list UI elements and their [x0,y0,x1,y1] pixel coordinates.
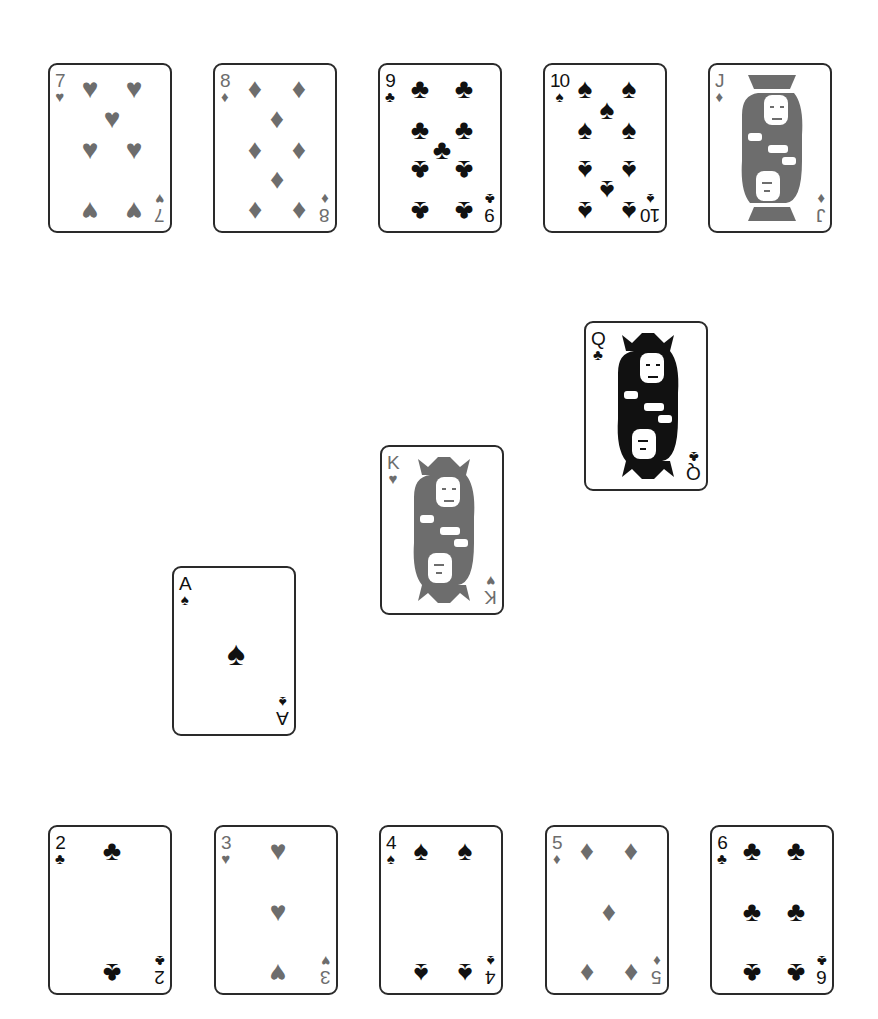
diamond-pip-icon: ♦ [270,167,284,195]
card-corner-index: Q♣ [591,329,605,362]
heart-pip-icon: ♥ [82,136,99,164]
card-corner-index: Q♣ [687,450,701,483]
card-corner-index: 5♦ [552,833,562,866]
card-4s[interactable]: 4♠4♠♠♠♠♠ [379,825,503,995]
card-kh[interactable]: K♥K♥ [380,445,504,615]
diamond-pip-icon: ♦ [270,105,284,133]
club-pip-icon: ♣ [455,197,473,225]
card-corner-index: A♠ [179,574,191,607]
card-3h[interactable]: 3♥3♥♥♥♥ [214,825,338,995]
club-pip-icon: ♣ [787,898,805,926]
card-corner-index: 6♣ [717,833,727,866]
club-pip-icon: ♣ [455,156,473,184]
diamond-pip-icon: ♦ [248,136,262,164]
card-corner-index: J♦ [715,71,724,104]
club-pip-icon: ♣ [455,116,473,144]
spade-pip-icon: ♠ [622,197,637,225]
card-corner-index: 9♣ [385,71,395,104]
heart-pip-icon: ♥ [270,898,287,926]
card-qc[interactable]: Q♣Q♣ [584,321,708,491]
heart-icon: ♥ [322,954,331,969]
spade-pip-icon: ♠ [414,837,429,865]
club-pip-icon: ♣ [433,136,451,164]
card-rank: 6 [817,968,827,987]
diamond-pip-icon: ♦ [602,898,616,926]
card-7h[interactable]: 7♥7♥♥♥♥♥♥♥♥ [48,63,172,233]
card-rank: J [817,206,826,225]
diamond-icon: ♦ [221,89,229,104]
card-corner-index: 3♥ [321,954,331,987]
spade-icon: ♠ [181,592,189,607]
heart-pip-icon: ♥ [82,197,99,225]
card-6c[interactable]: 6♣6♣♣♣♣♣♣♣ [710,825,834,995]
club-pip-icon: ♣ [103,959,121,987]
diamond-pip-icon: ♦ [292,75,306,103]
card-corner-index: 8♦ [220,71,230,104]
face-card-portrait-icon [406,457,482,603]
diamond-pip-icon: ♦ [248,197,262,225]
spade-pip-icon: ♠ [600,96,615,124]
card-corner-index: 7♥ [155,192,165,225]
card-8d[interactable]: 8♦8♦♦♦♦♦♦♦♦♦ [213,63,337,233]
card-corner-index: 6♣ [817,954,827,987]
card-rank: 8 [320,206,330,225]
heart-pip-icon: ♥ [126,197,143,225]
card-jd[interactable]: J♦J♦ [708,63,832,233]
diamond-pip-icon: ♦ [292,197,306,225]
heart-icon: ♥ [156,192,165,207]
club-icon: ♣ [817,954,827,969]
heart-pip-icon: ♥ [126,136,143,164]
spade-icon: ♠ [646,192,654,207]
diamond-pip-icon: ♦ [580,959,594,987]
card-corner-index: 5♦ [652,954,662,987]
card-corner-index: 10♠ [641,192,660,225]
card-rank: A [277,709,289,728]
diamond-pip-icon: ♦ [292,136,306,164]
card-corner-index: 4♠ [386,833,396,866]
spade-pip-icon: ♠ [458,959,473,987]
club-icon: ♣ [485,192,495,207]
card-rank: 7 [155,206,165,225]
spade-pip-icon: ♠ [227,636,245,670]
spade-pip-icon: ♠ [622,75,637,103]
spade-icon: ♠ [387,851,395,866]
heart-pip-icon: ♥ [126,75,143,103]
card-corner-index: 9♣ [485,192,495,225]
club-icon: ♣ [55,851,65,866]
face-card-portrait-icon [610,333,686,479]
card-rank: 5 [652,968,662,987]
card-corner-index: A♠ [277,695,289,728]
spade-icon: ♠ [487,954,495,969]
spade-pip-icon: ♠ [578,156,593,184]
diamond-icon: ♦ [653,954,661,969]
club-icon: ♣ [155,954,165,969]
club-pip-icon: ♣ [787,959,805,987]
card-corner-index: 7♥ [55,71,65,104]
spade-pip-icon: ♠ [622,156,637,184]
club-pip-icon: ♣ [411,75,429,103]
heart-pip-icon: ♥ [270,837,287,865]
face-card-portrait-icon [734,75,810,221]
card-as[interactable]: A♠A♠♠ [172,566,296,736]
card-rank: Q [687,464,701,483]
spade-icon: ♠ [279,695,287,710]
card-corner-index: 10♠ [550,71,569,104]
diamond-pip-icon: ♦ [624,837,638,865]
club-pip-icon: ♣ [743,837,761,865]
card-2c[interactable]: 2♣2♣♣♣ [48,825,172,995]
heart-icon: ♥ [55,89,64,104]
club-icon: ♣ [593,347,603,362]
card-rank: 9 [485,206,495,225]
heart-icon: ♥ [221,851,230,866]
card-9c[interactable]: 9♣9♣♣♣♣♣♣♣♣♣♣ [378,63,502,233]
card-rank: 4 [486,968,496,987]
heart-pip-icon: ♥ [270,959,287,987]
card-10s[interactable]: 10♠10♠♠♠♠♠♠♠♠♠♠♠ [543,63,667,233]
club-icon: ♣ [689,450,699,465]
club-pip-icon: ♣ [411,197,429,225]
diamond-icon: ♦ [715,89,723,104]
heart-icon: ♥ [487,574,496,589]
card-5d[interactable]: 5♦5♦♦♦♦♦♦ [545,825,669,995]
club-icon: ♣ [385,89,395,104]
card-corner-index: K♥ [387,453,399,486]
